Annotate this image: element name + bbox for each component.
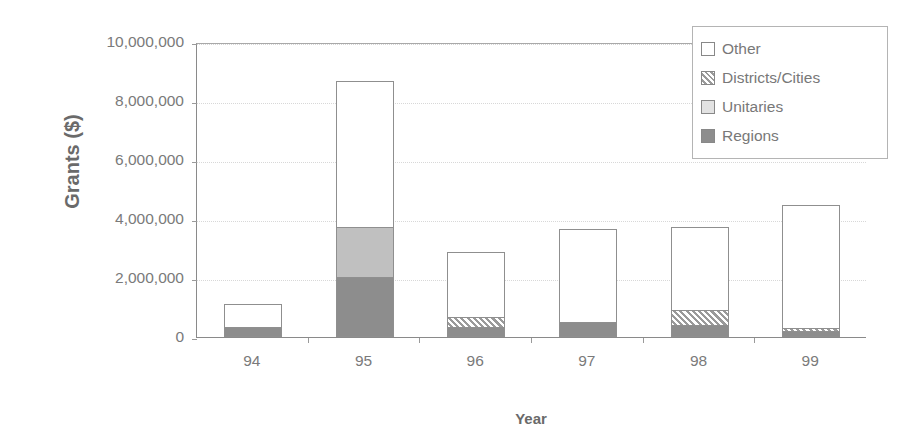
bar-segment [782, 331, 840, 337]
y-axis-tick-label: 2,000,000 [44, 269, 184, 287]
bar-segment [671, 310, 729, 326]
gridline [197, 221, 866, 222]
legend-item-label: Districts/Cities [722, 69, 820, 87]
x-axis-tick-mark [754, 338, 755, 343]
bar-segment [224, 327, 282, 337]
bar-segment [559, 229, 617, 323]
y-axis-tick-mark [192, 221, 197, 222]
bar-segment [447, 252, 505, 318]
y-axis-tick-label: 0 [44, 328, 184, 346]
x-axis-tick-label: 96 [430, 352, 520, 370]
y-axis-tick-mark [192, 103, 197, 104]
bar-segment [336, 81, 394, 229]
legend-item[interactable]: Other [701, 34, 881, 63]
swatch-unitaries-icon [701, 100, 715, 114]
bar-stack [224, 304, 282, 337]
bar-stack [447, 252, 505, 337]
y-axis-tick-mark [192, 162, 197, 163]
chart-legend: OtherDistricts/CitiesUnitariesRegions [692, 26, 888, 159]
y-axis-tick-label: 8,000,000 [44, 92, 184, 110]
legend-item[interactable]: Regions [701, 121, 881, 150]
y-axis-tick-mark [192, 339, 197, 340]
y-axis-tick-mark [192, 44, 197, 45]
swatch-regions-icon [701, 129, 715, 143]
x-axis-title: Year [196, 410, 866, 427]
bar-stack [559, 229, 617, 337]
legend-item[interactable]: Districts/Cities [701, 63, 881, 92]
x-axis-tick-label: 97 [542, 352, 632, 370]
x-axis-tick-label: 95 [319, 352, 409, 370]
bar-stack [336, 81, 394, 337]
bar-stack [782, 205, 840, 337]
bar-segment [559, 322, 617, 337]
y-axis-tick-label: 6,000,000 [44, 151, 184, 169]
legend-item-label: Other [722, 40, 761, 58]
bar-segment [671, 227, 729, 311]
x-axis-tick-mark [308, 338, 309, 343]
bar-segment [224, 304, 282, 328]
legend-item[interactable]: Unitaries [701, 92, 881, 121]
stacked-bar-chart: Grants ($) 02,000,0004,000,0006,000,0008… [0, 0, 904, 447]
y-axis-tick-label: 4,000,000 [44, 210, 184, 228]
gridline [197, 162, 866, 163]
legend-item-label: Regions [722, 127, 779, 145]
x-axis-tick-mark [419, 338, 420, 343]
bar-stack [671, 227, 729, 337]
x-axis-tick-mark [531, 338, 532, 343]
swatch-other-icon [701, 42, 715, 56]
legend-item-label: Unitaries [722, 98, 783, 116]
bar-segment [447, 327, 505, 337]
swatch-districts-icon [701, 71, 715, 85]
y-axis-tick-label: 10,000,000 [44, 33, 184, 51]
bar-segment [782, 205, 840, 329]
x-axis-tick-mark [643, 338, 644, 343]
x-axis-tick-label: 94 [207, 352, 297, 370]
bar-segment [336, 277, 394, 337]
x-axis-tick-label: 99 [765, 352, 855, 370]
x-axis-tick-label: 98 [654, 352, 744, 370]
bar-segment [671, 325, 729, 337]
y-axis-tick-mark [192, 280, 197, 281]
gridline [197, 280, 866, 281]
bar-segment [336, 227, 394, 277]
